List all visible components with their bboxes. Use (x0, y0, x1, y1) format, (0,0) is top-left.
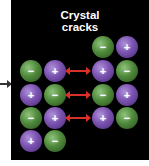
negative-ion: − (44, 130, 66, 152)
positive-ion: + (116, 84, 138, 106)
repulsion-arrow-icon (69, 94, 87, 96)
negative-ion: − (92, 84, 114, 106)
negative-ion: − (20, 60, 42, 82)
positive-ion: + (44, 107, 66, 129)
negative-ion: − (92, 36, 114, 58)
title-line-2: cracks (11, 21, 149, 33)
panel-title: Crystal cracks (11, 9, 149, 33)
positive-ion: + (20, 130, 42, 152)
negative-ion: − (20, 107, 42, 129)
positive-ion: + (116, 36, 138, 58)
crystal-cracks-panel: Crystal cracks − + + − − + + − − + + − −… (11, 0, 149, 160)
positive-ion: + (92, 60, 114, 82)
positive-ion: + (20, 84, 42, 106)
positive-ion: + (44, 60, 66, 82)
negative-ion: − (116, 60, 138, 82)
repulsion-arrow-icon (69, 70, 87, 72)
negative-ion: − (116, 107, 138, 129)
title-line-1: Crystal (11, 9, 149, 21)
incoming-arrow-icon (0, 83, 8, 85)
repulsion-arrow-icon (69, 117, 87, 119)
positive-ion: + (92, 107, 114, 129)
negative-ion: − (44, 84, 66, 106)
